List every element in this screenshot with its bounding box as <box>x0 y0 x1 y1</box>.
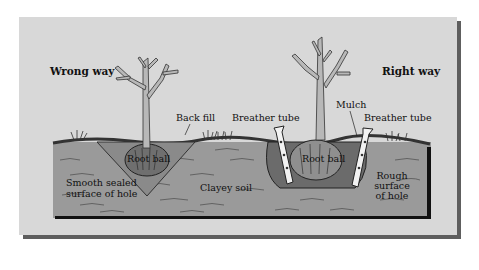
leader-lines <box>0 0 479 270</box>
